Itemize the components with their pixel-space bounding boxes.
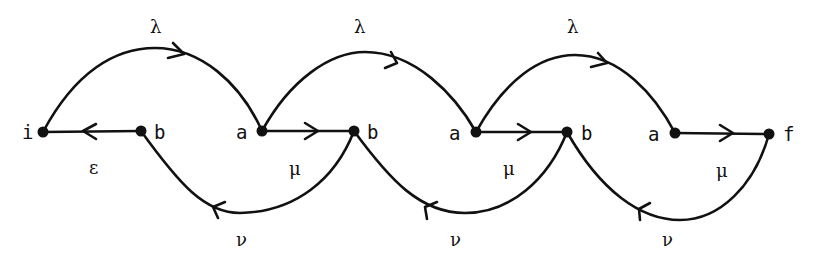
edge-label-mu: μ — [289, 158, 301, 179]
edge-b-to-b-nu-1 — [141, 131, 354, 213]
edge-label-nu: ν — [662, 229, 673, 250]
automaton-diagram: i b a b a b a f λ λ λ ε μ μ μ ν ν ν — [0, 0, 831, 265]
edge-a-to-f-mu — [675, 133, 769, 134]
node-b-1 — [136, 126, 147, 137]
nodes — [38, 126, 775, 140]
node-f — [764, 129, 775, 140]
straight-edges — [43, 123, 769, 141]
edge-i-to-a-lambda — [43, 48, 262, 132]
edge-label-lambda: λ — [567, 16, 578, 37]
lower-arcs — [141, 131, 769, 220]
edge-label-epsilon: ε — [89, 157, 98, 178]
edge-label-mu: μ — [716, 160, 728, 181]
node-a-3 — [670, 128, 681, 139]
node-label-b: b — [154, 121, 165, 143]
node-a-2 — [471, 127, 482, 138]
node-label-a: a — [236, 121, 247, 143]
edge-a-to-a-lambda-1 — [262, 52, 476, 132]
node-a-1 — [257, 126, 268, 137]
edge-a-to-a-lambda-2 — [476, 55, 675, 133]
edge-b-to-i-epsilon — [43, 131, 141, 132]
edge-b-to-b-nu-2 — [354, 131, 567, 213]
node-label-a: a — [648, 123, 659, 145]
node-label-i: i — [22, 121, 33, 143]
node-label-b: b — [581, 122, 592, 144]
edge-label-nu: ν — [450, 229, 461, 250]
edge-label-mu: μ — [503, 158, 515, 179]
node-b-3 — [562, 127, 573, 138]
node-i — [38, 127, 49, 138]
edge-label-lambda: λ — [354, 16, 365, 37]
upper-arcs — [43, 43, 675, 133]
edge-labels: λ λ λ ε μ μ μ ν ν ν — [89, 16, 728, 250]
node-label-f: f — [783, 123, 794, 145]
node-label-b: b — [367, 121, 378, 143]
edge-label-lambda: λ — [150, 16, 161, 37]
edge-f-to-b-nu — [567, 132, 769, 220]
edge-label-nu: ν — [236, 229, 247, 250]
node-label-a: a — [449, 122, 460, 144]
node-b-2 — [349, 126, 360, 137]
